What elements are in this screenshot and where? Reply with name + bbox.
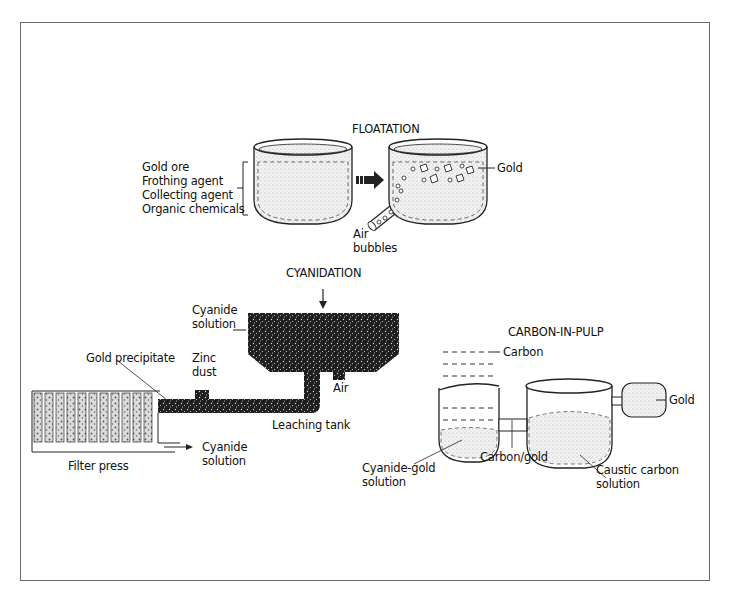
arrow-right-icon (356, 171, 384, 189)
air-inlet-label: Air (333, 381, 348, 395)
cyanidation-title: CYANIDATION (286, 266, 361, 280)
carbon-in-pulp-title: CARBON-IN-PULP (508, 325, 603, 339)
cyanide-solution-label-2: solution (192, 317, 236, 331)
cip-gold-label: Gold (669, 393, 695, 407)
bubbles-label: bubbles (353, 241, 397, 255)
cyanide-solution-label-1: Cyanide (192, 303, 237, 317)
input-gold-ore: Gold ore (142, 160, 189, 174)
diagram-artwork (0, 0, 730, 604)
carbon-label: Carbon (503, 345, 543, 359)
caustic-label-2: solution (596, 477, 640, 491)
floatation-tank-1 (254, 139, 352, 224)
cyanide-gold-label-2: solution (362, 475, 406, 489)
input-collecting-agent: Collecting agent (142, 188, 233, 202)
floatation-tank-2 (366, 139, 495, 232)
cyanide-gold-label-1: Cyanide-gold (362, 461, 435, 475)
floatation-title: FLOATATION (352, 122, 420, 136)
gold-precipitate-label: Gold precipitate (86, 351, 175, 365)
leaching-tank-label: Leaching tank (272, 418, 350, 432)
cyanide-out-label-1: Cyanide (202, 440, 247, 454)
floatation-gold-label: Gold (497, 161, 523, 175)
air-label: Air (353, 227, 368, 241)
dust-label: dust (192, 365, 216, 379)
zinc-label: Zinc (192, 351, 216, 365)
carbon-gold-label: Carbon/gold (480, 450, 548, 464)
caustic-label-1: Caustic carbon (596, 463, 679, 477)
cyanide-out-label-2: solution (202, 454, 246, 468)
filter-press-label: Filter press (68, 459, 129, 473)
cyanidation-arrow-icon (319, 289, 327, 309)
input-frothing-agent: Frothing agent (142, 174, 223, 188)
input-organic-chemicals: Organic chemicals (142, 202, 245, 216)
